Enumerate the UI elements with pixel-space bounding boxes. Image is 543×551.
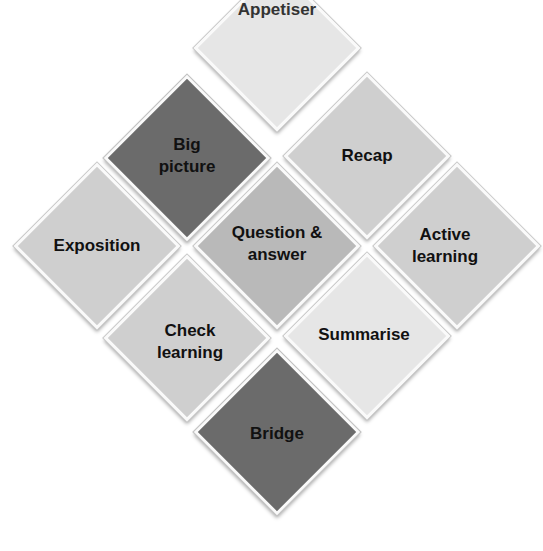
qa-line1: Question & bbox=[232, 222, 323, 244]
big-picture-label: Big picture bbox=[159, 134, 216, 178]
appetiser-label: Appetiser bbox=[238, 0, 316, 21]
recap-label: Recap bbox=[341, 145, 392, 167]
qa-line2: answer bbox=[232, 244, 323, 266]
question-answer-label: Question & answer bbox=[232, 222, 323, 266]
active-line1: Active bbox=[412, 224, 478, 246]
active-line2: learning bbox=[412, 246, 478, 268]
check-learning-label: Check learning bbox=[157, 320, 223, 364]
check-line2: learning bbox=[157, 342, 223, 364]
check-line1: Check bbox=[157, 320, 223, 342]
bridge-label: Bridge bbox=[250, 423, 304, 445]
summarise-label: Summarise bbox=[318, 324, 410, 346]
big-picture-line1: Big bbox=[159, 134, 216, 156]
exposition-label: Exposition bbox=[54, 235, 141, 257]
active-learning-label: Active learning bbox=[412, 224, 478, 268]
big-picture-line2: picture bbox=[159, 156, 216, 178]
